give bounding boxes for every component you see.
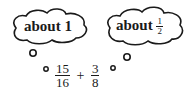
left-bubble-text: about 1 [24,19,72,34]
second-denominator: 8 [91,76,100,89]
right-bubble-label: about [116,17,153,33]
first-denominator: 16 [55,76,70,89]
thought-dot-large-left [30,50,36,56]
first-fraction: 15 16 [55,62,70,89]
left-bubble-value: 1 [64,18,72,34]
thought-dot-small-right [111,66,115,70]
first-numerator: 15 [55,62,70,76]
thought-dot-large-right [124,54,130,60]
fraction-sum-expression: 15 16 + 3 8 [55,62,99,89]
fraction-denominator: 2 [156,27,163,36]
plus-operator: + [77,68,85,84]
right-bubble-text: about 1 2 [116,17,163,36]
thought-dot-small-left [44,67,48,71]
left-bubble-label: about [24,18,61,34]
right-bubble-fraction: 1 2 [156,17,163,36]
second-fraction: 3 8 [91,62,100,89]
second-numerator: 3 [91,62,100,76]
